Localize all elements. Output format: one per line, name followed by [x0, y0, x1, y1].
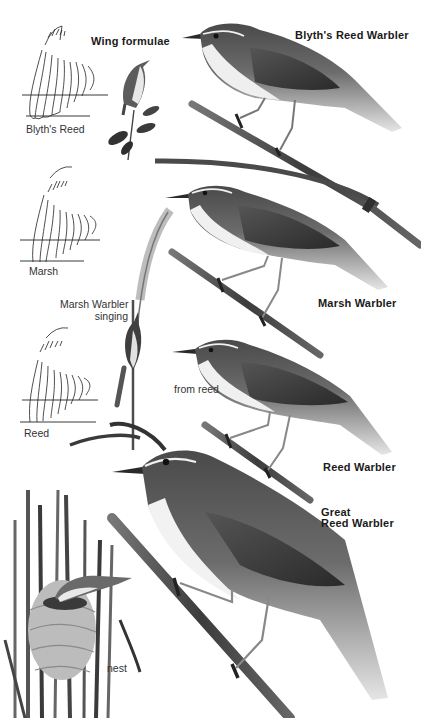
- annotation-marsh-singing-line2: singing: [60, 310, 128, 322]
- wing-formula-label-marsh: Marsh: [29, 265, 58, 277]
- bird-great-reed-warbler: [112, 451, 388, 700]
- species-label-marsh-warbler: Marsh Warbler: [318, 297, 397, 310]
- wing-formula-label-reed: Reed: [24, 427, 49, 439]
- species-label-reed-warbler: Reed Warbler: [323, 461, 396, 474]
- annotation-from-reed: from reed: [174, 383, 219, 395]
- reed-stem-marsh: [172, 252, 320, 355]
- small-singing-bird-top: [106, 60, 161, 160]
- species-label-blyths-reed-warbler: Blyth's Reed Warbler: [295, 29, 409, 42]
- wing-formula-reed: [20, 328, 98, 422]
- reed-plume: [137, 210, 170, 330]
- annotation-marsh-singing-line1: Marsh Warbler: [60, 298, 128, 310]
- wing-formula-marsh: [20, 167, 100, 262]
- wing-formulae-heading: Wing formulae: [91, 35, 170, 48]
- plate-illustration: [0, 0, 421, 718]
- field-guide-plate: Wing formulae Blyth's Reed Marsh Reed Bl…: [0, 0, 421, 718]
- annotation-nest: nest: [107, 662, 127, 674]
- species-label-great-reed-line2: Reed Warbler: [321, 517, 394, 530]
- wing-formula-label-blyths: Blyth's Reed: [26, 123, 85, 135]
- bird-blyths-reed-warbler: [182, 24, 402, 156]
- reed-stem-singing: [70, 300, 165, 450]
- bird-marsh-warbler-singing: [117, 312, 141, 405]
